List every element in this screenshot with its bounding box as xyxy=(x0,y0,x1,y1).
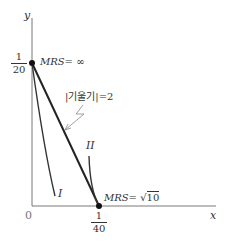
bottom-mrs-label: MRS= √10 xyxy=(104,193,159,203)
slope-pointer-icon xyxy=(65,105,84,130)
y-intercept-numerator: 1 xyxy=(11,52,27,62)
x-intercept-fraction: 1 40 xyxy=(91,211,107,234)
slope-annotation: |기울기|=2 xyxy=(65,92,113,102)
curve-I-label: I xyxy=(58,188,62,199)
y-intercept-fraction: 1 20 xyxy=(11,52,27,75)
y-axis-label: y xyxy=(24,10,30,21)
origin-label: 0 xyxy=(25,210,32,221)
bottom-mrs-prefix: MRS= xyxy=(104,192,137,203)
indifference-curve-II xyxy=(89,156,99,206)
y-intercept-denominator: 20 xyxy=(11,65,27,75)
point-bottom xyxy=(96,203,102,209)
top-mrs-label: MRS= ∞ xyxy=(40,57,85,67)
curve-II-label: II xyxy=(86,140,95,151)
sqrt-icon: √ xyxy=(140,192,146,203)
indifference-curve-I xyxy=(32,63,55,196)
bottom-mrs-radicand: 10 xyxy=(147,191,160,203)
x-intercept-numerator: 1 xyxy=(91,211,107,221)
budget-line xyxy=(32,63,99,206)
x-axis-label: x xyxy=(210,210,216,221)
point-top xyxy=(29,60,35,66)
x-intercept-denominator: 40 xyxy=(91,224,107,234)
diagram-canvas xyxy=(0,0,227,246)
